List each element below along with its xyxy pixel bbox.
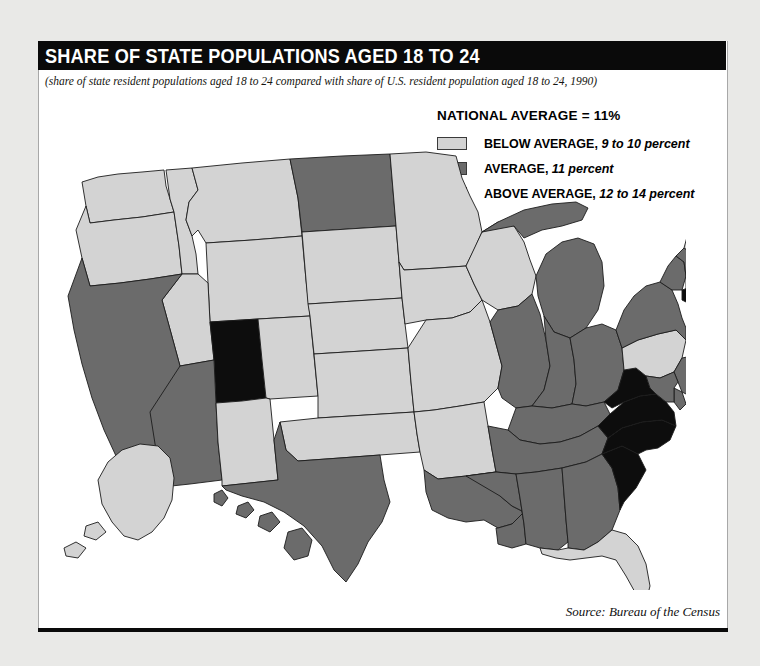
bottom-rule	[38, 628, 728, 632]
infographic-page: SHARE OF STATE POPULATIONS AGED 18 TO 24…	[0, 0, 760, 666]
map-svg	[46, 150, 686, 590]
legend-swatch-below	[437, 137, 467, 150]
state-WY	[206, 236, 310, 322]
state-AK	[64, 444, 174, 558]
state-OK	[280, 412, 420, 461]
state-SD	[302, 226, 402, 304]
state-MN	[390, 152, 482, 270]
legend-heading: NATIONAL AVERAGE = 11%	[437, 108, 697, 123]
us-choropleth-map	[46, 150, 686, 590]
state-MT	[186, 159, 302, 243]
legend-label-below: BELOW AVERAGE, 9 to 10 percent	[484, 137, 690, 151]
subtitle: (share of state resident populations age…	[45, 75, 705, 87]
state-UT	[210, 319, 266, 403]
state-NM	[216, 398, 278, 486]
state-ND	[290, 154, 396, 232]
page-title: SHARE OF STATE POPULATIONS AGED 18 TO 24	[45, 45, 480, 68]
state-CO	[258, 316, 318, 399]
title-bar: SHARE OF STATE POPULATIONS AGED 18 TO 24	[38, 41, 726, 70]
state-KS	[314, 348, 414, 418]
state-NE	[308, 298, 408, 354]
state-AR	[414, 402, 496, 479]
state-IL	[490, 294, 550, 408]
source-note: Source: Bureau of the Census	[38, 604, 720, 620]
